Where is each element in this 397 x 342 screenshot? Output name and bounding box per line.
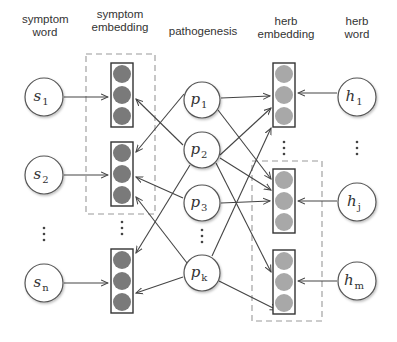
embedding-unit [275, 86, 293, 104]
embedding-unit [275, 252, 293, 270]
embedding-unit [113, 107, 131, 125]
header-symptom-embedding: symptom embedding [85, 8, 155, 34]
embedding-unit [113, 144, 131, 162]
edge-pk-to-he1 [212, 128, 271, 256]
edge-p2-to-he1 [220, 108, 271, 155]
embedding-unit [113, 251, 131, 269]
p-ellipsis-icon [201, 229, 204, 244]
symptom-node-sn: sn [25, 264, 63, 302]
s-ellipsis-icon [43, 227, 46, 242]
pathogenesis-node-p2: p2 [184, 132, 220, 168]
pathogenesis-node-p1: p1 [184, 82, 220, 118]
edge-p2-to-sen [136, 165, 190, 253]
embedding-unit [113, 165, 131, 183]
symptom-node-s2: s2 [25, 156, 63, 194]
embedding-unit [113, 86, 131, 104]
symptom-node-s1: s1 [25, 78, 63, 116]
he-ellipsis-icon [283, 141, 286, 156]
embedding-unit [113, 186, 131, 204]
header-pathogenesis: pathogenesis [163, 25, 243, 38]
herb-embedding-hem [273, 250, 295, 314]
embedding-unit [275, 65, 293, 83]
header-herb-embedding: herb embedding [251, 15, 321, 41]
header-herb-word: herb word [337, 15, 377, 41]
edge-p1-to-he1 [221, 96, 270, 98]
se-ellipsis-icon [121, 221, 124, 236]
embedding-unit [113, 272, 131, 290]
h-ellipsis-icon [356, 141, 359, 156]
herb-recommendation-diagram: s1s2snp1p2p3pkh1hjhm [0, 0, 397, 342]
embedding-unit [275, 273, 293, 291]
embedding-unit [113, 65, 131, 83]
herb-node-hm: hm [338, 262, 376, 300]
edge-p2-to-se1 [136, 99, 183, 145]
embedding-unit [275, 171, 293, 189]
edge-pk-to-hem [219, 281, 277, 310]
embedding-unit [275, 192, 293, 210]
nodes: s1s2snp1p2p3pkh1hjhm [25, 78, 376, 302]
herb-embedding-hej [273, 169, 295, 233]
edge-pk-to-sen [136, 277, 183, 293]
symptom-embedding-se1 [111, 63, 133, 127]
embedding-unit [275, 107, 293, 125]
herb-node-h1: h1 [338, 78, 376, 116]
herb-node-hj: hj [338, 183, 376, 221]
edge-p3-to-hej [221, 201, 270, 203]
embedding-unit [275, 213, 293, 231]
header-symptom-word: symptom word [22, 13, 68, 39]
embedding-unit [275, 294, 293, 312]
pathogenesis-node-pk: pk [184, 255, 220, 291]
symptom-embedding-se2 [111, 142, 133, 206]
edge-p2-to-hem [216, 163, 271, 272]
symptom-embedding-sen [111, 249, 133, 313]
embedding-unit [113, 293, 131, 311]
pathogenesis-node-p3: p3 [184, 185, 220, 221]
edge-pk-to-se2 [136, 197, 187, 263]
herb-embedding-he1 [273, 63, 295, 127]
